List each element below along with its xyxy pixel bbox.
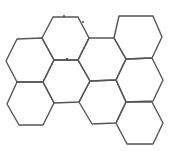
marker-dot bbox=[63, 15, 65, 17]
hex-top-right bbox=[114, 16, 162, 59]
hex-left-lower bbox=[7, 82, 54, 125]
hexagon-grid-diagram bbox=[0, 0, 171, 151]
hex-bottom-right bbox=[116, 102, 163, 144]
hexagon-layer bbox=[6, 16, 163, 144]
marker-dot bbox=[82, 21, 84, 23]
marker-dot bbox=[66, 58, 68, 60]
